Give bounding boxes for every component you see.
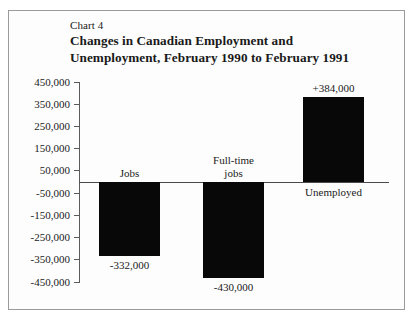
bar-category-label: Jobs: [74, 167, 185, 180]
plot-area: 450,000350,000250,000150,00050,000-50,00…: [9, 11, 406, 311]
y-axis-tick-label: 250,000: [0, 121, 70, 132]
bar-unemployed[interactable]: [303, 97, 364, 182]
y-axis-tick-label: 50,000: [0, 165, 70, 176]
bar-value-label: -430,000: [178, 281, 289, 293]
y-axis-tick: [74, 193, 80, 194]
y-axis-tick: [74, 82, 80, 83]
y-axis-tick-label: 350,000: [0, 99, 70, 110]
y-axis-tick-label: -150,000: [0, 210, 70, 221]
y-axis-tick: [74, 104, 80, 105]
bar-value-label: -332,000: [74, 259, 185, 271]
y-axis-tick-label: -350,000: [0, 254, 70, 265]
y-axis-tick: [74, 237, 80, 238]
bar-jobs[interactable]: [99, 182, 160, 256]
y-axis-tick-label: -50,000: [0, 188, 70, 199]
chart-figure: Chart 4 Changes in Canadian Employment a…: [8, 10, 405, 310]
bar-full-time-jobs[interactable]: [203, 182, 264, 278]
y-axis-tick: [74, 148, 80, 149]
y-axis-tick-label: -450,000: [0, 277, 70, 288]
bar-category-line: Full-time: [178, 154, 289, 167]
bar-category-label: Unemployed: [278, 186, 389, 199]
y-axis-tick-label: 150,000: [0, 143, 70, 154]
bar-value-label: +384,000: [278, 82, 389, 94]
bar-category-line: Jobs: [74, 167, 185, 180]
y-axis-tick: [74, 126, 80, 127]
bar-category-line: jobs: [178, 167, 289, 180]
y-axis-tick: [74, 282, 80, 283]
bar-category-line: Unemployed: [278, 186, 389, 199]
y-axis-tick-label: -250,000: [0, 232, 70, 243]
bar-category-label: Full-timejobs: [178, 154, 289, 179]
y-axis-tick: [74, 215, 80, 216]
y-axis-tick-label: 450,000: [0, 77, 70, 88]
